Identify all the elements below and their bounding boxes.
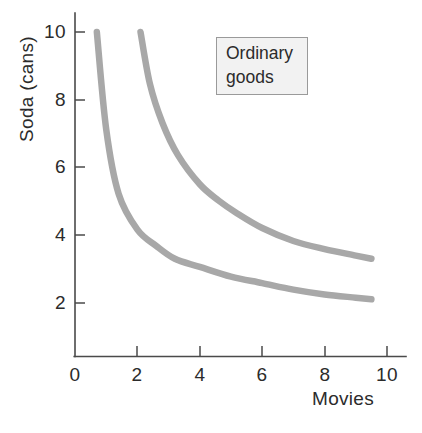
x-tick-label-2: 2 (119, 364, 155, 386)
y-axis-title: Soda (cans) (16, 14, 38, 164)
legend-line-2: goods (226, 66, 307, 90)
legend-line-1: Ordinary (226, 42, 307, 66)
ordinary-goods-annotation: Ordinary goods (216, 37, 308, 95)
x-tick-label-6: 6 (244, 364, 280, 386)
x-tick-label-4: 4 (182, 364, 218, 386)
x-axis-title: Movies (312, 388, 374, 410)
y-tick-marks (75, 32, 85, 303)
x-tick-label-0: 0 (57, 364, 93, 386)
indifference-curve-figure: 10 8 6 4 2 0 2 4 6 8 10 Soda (cans) Movi… (0, 0, 422, 433)
y-tick-label-4: 4 (30, 224, 66, 246)
x-tick-label-10: 10 (369, 364, 405, 386)
y-tick-label-2: 2 (30, 292, 66, 314)
x-tick-label-8: 8 (307, 364, 343, 386)
x-tick-marks (137, 346, 387, 356)
